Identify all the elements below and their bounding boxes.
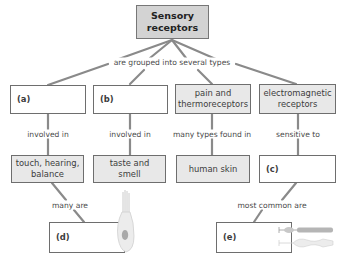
taste-line-1: taste and [110, 158, 150, 169]
taste-smell-node: taste and smell [93, 155, 166, 183]
pain-line-1: pain and [195, 88, 232, 99]
type-a-label: (a) [17, 94, 30, 105]
root-line-1: Sensory [151, 10, 194, 22]
link-many-are: many are [50, 201, 90, 210]
type-c-node: (c) [259, 155, 336, 183]
link-sensitive-to: sensitive to [274, 130, 322, 139]
sensory-receptors-node: Sensory receptors [136, 5, 209, 39]
type-b-node: (b) [93, 85, 168, 114]
link-grouped-into: are grouped into several types [112, 58, 233, 67]
link-most-common-are: most common are [235, 201, 308, 210]
pain-thermoreceptors-node: pain and thermoreceptors [175, 84, 251, 114]
touch-line-2: balance [31, 169, 64, 180]
type-d-label: (d) [56, 232, 70, 243]
human-skin-label: human skin [189, 164, 238, 175]
pain-line-2: thermoreceptors [178, 99, 248, 110]
electromagnetic-receptors-node: electromagnetic receptors [259, 84, 336, 114]
type-e-label: (e) [223, 232, 236, 243]
type-a-node: (a) [10, 85, 86, 114]
touch-line-1: touch, hearing, [16, 158, 80, 169]
root-line-2: receptors [147, 22, 198, 34]
taste-line-2: smell [118, 169, 140, 180]
type-b-label: (b) [100, 94, 114, 105]
human-skin-node: human skin [176, 155, 250, 183]
hair-cell-icon [112, 190, 140, 254]
type-c-label: (c) [266, 164, 279, 175]
em-line-1: electromagnetic [263, 88, 331, 99]
link-b-involved-in: involved in [107, 130, 153, 139]
link-many-types-found-in: many types found in [171, 130, 253, 139]
link-a-involved-in: involved in [25, 130, 71, 139]
em-line-2: receptors [278, 99, 318, 110]
rod-and-cone-cells-icon [275, 224, 337, 252]
touch-hearing-balance-node: touch, hearing, balance [11, 155, 84, 183]
